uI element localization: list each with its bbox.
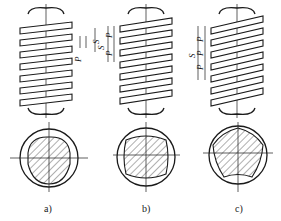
caption-a: a) (44, 203, 52, 215)
lead-label: S (96, 45, 106, 50)
section-c (203, 122, 273, 192)
lead-label: S (91, 39, 101, 44)
section-b (113, 122, 180, 192)
caption-c: c) (235, 203, 243, 215)
pitch-label-1: P (195, 36, 205, 43)
panel-a-screw: P S (20, 4, 101, 118)
pitch-label-3: P (195, 64, 205, 71)
caption-b: b) (142, 203, 150, 215)
panel-c-screw: S P P P (187, 4, 263, 118)
pitch-label-2: P (195, 50, 205, 57)
dimension-c: S P P P (187, 26, 205, 80)
dimension-a: P S (73, 28, 101, 63)
pitch-label: P (73, 56, 83, 63)
panel-b-screw: S P P (96, 4, 172, 118)
thread-starts-diagram: P S S P P (0, 0, 281, 221)
section-a (10, 122, 88, 192)
pitch-label-2: P (104, 50, 114, 57)
pitch-label-1: P (104, 32, 114, 39)
